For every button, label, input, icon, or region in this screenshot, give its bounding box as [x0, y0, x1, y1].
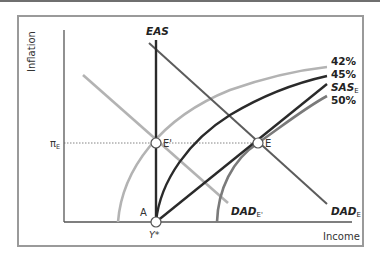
dad-e-prime-main: DAD — [231, 205, 257, 217]
point-e — [253, 138, 263, 148]
label-42-percent: 42% — [331, 55, 357, 67]
sas-e-label: SASE — [331, 81, 359, 95]
label-45-percent: 45% — [331, 68, 357, 80]
sas-e-main: SAS — [331, 81, 354, 93]
label-50-percent: 50% — [331, 94, 357, 106]
point-e-prime — [151, 138, 161, 148]
y-axis-label: Inflation — [26, 31, 37, 72]
eas-label: EAS — [146, 25, 169, 37]
pi-subscript: E — [56, 143, 60, 151]
point-a — [151, 217, 161, 227]
dad-e-label: DADE — [331, 205, 361, 219]
x-axis-label: Income — [323, 231, 360, 242]
dad-e-prime-label: DADE' — [231, 205, 263, 219]
potential-output-label: Y* — [149, 229, 160, 240]
dad-e-sub: E — [357, 211, 361, 219]
ad-as-diagram: Inflation Income E' E A Y* πE EAS 42% 45… — [0, 0, 380, 258]
point-e-prime-label: E' — [163, 138, 172, 149]
inflation-target-label: πE — [50, 138, 60, 151]
sas-e-line — [156, 84, 327, 222]
dad-e-main: DAD — [331, 205, 357, 217]
dad-e-line — [149, 43, 327, 204]
point-e-label: E — [265, 138, 271, 149]
axes — [64, 30, 352, 222]
dad-e-prime-sub: E' — [257, 211, 263, 219]
point-a-label: A — [140, 207, 147, 218]
